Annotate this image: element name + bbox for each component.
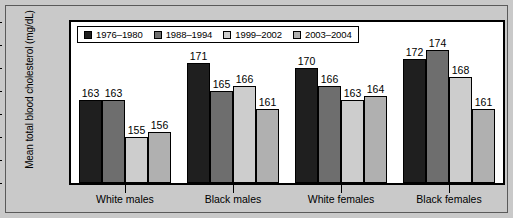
chart-legend: 1976–19801988–19941999–20022003–2004 xyxy=(77,26,359,43)
bar-value-label: 164 xyxy=(356,83,396,95)
bar xyxy=(125,137,148,183)
figure-container: Mean total blood cholesterol (mg/dL) 163… xyxy=(0,0,513,218)
y-tick-mark xyxy=(0,183,2,184)
legend-item: 1988–1994 xyxy=(154,29,213,40)
legend-swatch-icon xyxy=(223,31,231,39)
y-tick-mark xyxy=(0,22,2,23)
legend-swatch-icon xyxy=(293,31,301,39)
bar-value-label: 161 xyxy=(248,96,288,108)
bar-value-label: 166 xyxy=(225,73,265,85)
bar xyxy=(148,132,171,183)
bar xyxy=(318,86,341,183)
bar xyxy=(341,100,364,183)
y-tick-mark xyxy=(0,91,2,92)
bar xyxy=(403,59,426,183)
category-tick xyxy=(125,185,126,193)
category-tick xyxy=(341,185,342,193)
plot-area: 1631631551561711651661611701661631641721… xyxy=(69,20,505,185)
category-label-black-females: Black females xyxy=(389,193,509,205)
bar xyxy=(210,91,233,183)
category-tick xyxy=(233,185,234,193)
bar-value-label: 170 xyxy=(287,55,327,67)
y-tick-mark xyxy=(0,45,2,46)
bar-value-label: 156 xyxy=(140,119,180,131)
figure-border: Mean total blood cholesterol (mg/dL) 163… xyxy=(5,5,508,213)
category-label-white-males: White males xyxy=(65,193,185,205)
y-tick-mark xyxy=(0,137,2,138)
y-tick-mark xyxy=(0,68,2,69)
bar xyxy=(102,100,125,183)
y-tick-mark xyxy=(0,160,2,161)
bar xyxy=(79,100,102,183)
plot-inner: 1631631551561711651661611701661631641721… xyxy=(71,22,503,183)
bar xyxy=(472,109,495,183)
legend-label: 2003–2004 xyxy=(305,29,352,40)
bar-value-label: 161 xyxy=(464,96,504,108)
bar xyxy=(256,109,279,183)
y-tick-mark xyxy=(0,114,2,115)
legend-item: 1999–2002 xyxy=(223,29,282,40)
legend-label: 1999–2002 xyxy=(235,29,282,40)
legend-swatch-icon xyxy=(154,31,162,39)
legend-swatch-icon xyxy=(84,31,92,39)
bar xyxy=(449,77,472,183)
legend-label: 1988–1994 xyxy=(166,29,213,40)
bar-value-label: 171 xyxy=(179,50,219,62)
legend-item: 1976–1980 xyxy=(84,29,143,40)
category-label-white-females: White females xyxy=(281,193,401,205)
bar xyxy=(364,96,387,183)
bar-value-label: 174 xyxy=(418,37,458,49)
y-axis-title: Mean total blood cholesterol (mg/dL) xyxy=(24,5,35,175)
category-tick xyxy=(449,185,450,193)
category-label-black-males: Black males xyxy=(173,193,293,205)
legend-item: 2003–2004 xyxy=(293,29,352,40)
legend-label: 1976–1980 xyxy=(96,29,143,40)
bar-value-label: 166 xyxy=(310,73,350,85)
bar-value-label: 163 xyxy=(94,87,134,99)
bar-value-label: 168 xyxy=(441,64,481,76)
